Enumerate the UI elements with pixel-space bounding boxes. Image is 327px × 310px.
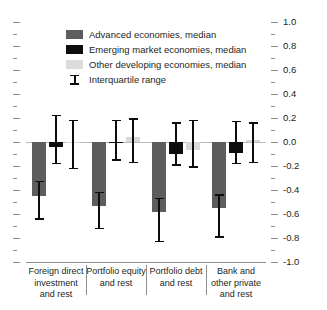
whisker-emerging-group-2 (115, 120, 117, 160)
whisker-cap-bottom-advanced-group-1 (35, 218, 44, 220)
y-tick-major-right (271, 166, 278, 167)
y-tick-minor-left (13, 106, 17, 107)
y-axis-label-0neg6: 0.6 (283, 64, 296, 75)
y-axis-label-neg1-0: -1.0 (283, 256, 299, 267)
category-label-4: Bank and other private and rest (206, 266, 266, 301)
y-tick-minor-left (13, 58, 17, 59)
y-tick-minor-right (271, 58, 275, 59)
whisker-cap-bottom-advanced-group-2 (95, 228, 104, 230)
y-tick-minor-right (271, 202, 275, 203)
y-tick-major-right (271, 142, 278, 143)
y-tick-major-right (271, 70, 278, 71)
plot-area (26, 22, 266, 262)
y-tick-minor-right (271, 82, 275, 83)
y-tick-minor-right (271, 106, 275, 107)
whisker-cap-top-emerging-group-3 (172, 122, 181, 124)
y-tick-minor-right (271, 130, 275, 131)
y-tick-major-left (13, 166, 20, 167)
whisker-advanced-group-1 (38, 182, 40, 219)
whisker-cap-top-other-developing-group-4 (249, 122, 258, 124)
whisker-other-developing-group-2 (132, 119, 134, 162)
y-tick-major-right (271, 238, 278, 239)
whisker-emerging-group-4 (235, 122, 237, 164)
whisker-advanced-group-2 (98, 192, 100, 228)
y-tick-major-left (13, 190, 20, 191)
y-tick-major-right (271, 46, 278, 47)
category-separator-3 (206, 265, 207, 295)
y-tick-major-right (271, 94, 278, 95)
whisker-cap-top-advanced-group-4 (215, 194, 224, 196)
whisker-other-developing-group-1 (72, 120, 74, 168)
whisker-cap-top-emerging-group-4 (232, 121, 241, 123)
category-label-2: Portfolio equity and rest (86, 266, 146, 289)
y-tick-major-left (13, 262, 20, 263)
whisker-cap-bottom-emerging-group-2 (112, 159, 121, 161)
y-tick-minor-left (13, 226, 17, 227)
whisker-cap-bottom-emerging-group-4 (232, 163, 241, 165)
y-tick-minor-left (13, 34, 17, 35)
whisker-cap-bottom-other-developing-group-3 (189, 166, 198, 168)
y-tick-minor-left (13, 154, 17, 155)
whisker-advanced-group-4 (218, 195, 220, 237)
y-tick-major-right (271, 22, 278, 23)
y-tick-minor-left (13, 178, 17, 179)
y-tick-major-left (13, 118, 20, 119)
whisker-cap-top-advanced-group-2 (95, 192, 104, 194)
y-axis-label-neg0-2: -0.2 (283, 160, 299, 171)
whisker-cap-bottom-emerging-group-1 (52, 163, 61, 165)
whisker-cap-bottom-advanced-group-4 (215, 236, 224, 238)
whisker-cap-bottom-other-developing-group-1 (69, 168, 78, 170)
y-tick-major-right (271, 262, 278, 263)
y-tick-major-left (13, 142, 20, 143)
y-axis-label-0neg2: 0.2 (283, 112, 296, 123)
y-tick-major-left (13, 70, 20, 71)
whisker-cap-top-other-developing-group-3 (189, 120, 198, 122)
category-separator-1 (86, 265, 87, 295)
y-tick-major-left (13, 214, 20, 215)
y-axis-label-0neg8: 0.8 (283, 40, 296, 51)
y-tick-minor-left (13, 202, 17, 203)
y-tick-minor-right (271, 250, 275, 251)
y-axis-label-1neg0: 1.0 (283, 16, 296, 27)
y-axis-label-neg0-4: -0.4 (283, 184, 299, 195)
y-tick-minor-right (271, 154, 275, 155)
y-tick-major-left (13, 238, 20, 239)
y-tick-minor-right (271, 178, 275, 179)
whisker-other-developing-group-3 (192, 120, 194, 167)
y-tick-major-left (13, 22, 20, 23)
y-tick-major-left (13, 94, 20, 95)
whisker-cap-bottom-emerging-group-3 (172, 164, 181, 166)
whisker-cap-top-emerging-group-2 (112, 120, 121, 122)
whisker-cap-bottom-other-developing-group-4 (249, 162, 258, 164)
y-axis-label-neg0-6: -0.6 (283, 208, 299, 219)
y-axis-label-neg0-8: -0.8 (283, 232, 299, 243)
whisker-cap-top-other-developing-group-2 (129, 118, 138, 120)
y-tick-major-right (271, 190, 278, 191)
whisker-cap-top-advanced-group-1 (35, 181, 44, 183)
chart-figure: Advanced economies, median Emerging mark… (0, 0, 327, 310)
y-tick-minor-left (13, 250, 17, 251)
y-tick-major-left (13, 46, 20, 47)
y-tick-minor-left (13, 82, 17, 83)
y-tick-major-right (271, 118, 278, 119)
category-axis-line (26, 262, 266, 263)
whisker-emerging-group-3 (175, 123, 177, 165)
whisker-cap-bottom-advanced-group-3 (155, 241, 164, 243)
category-label-1: Foreign direct investment and rest (26, 266, 86, 301)
whisker-emerging-group-1 (55, 116, 57, 164)
y-tick-minor-right (271, 34, 275, 35)
whisker-cap-top-other-developing-group-1 (69, 120, 78, 122)
y-tick-minor-left (13, 130, 17, 131)
whisker-cap-top-emerging-group-1 (52, 115, 61, 117)
whisker-cap-bottom-other-developing-group-2 (129, 162, 138, 164)
y-tick-major-right (271, 214, 278, 215)
y-axis-label-0neg0: 0.0 (283, 136, 296, 147)
category-label-3: Portfolio debt and rest (146, 266, 206, 289)
y-axis-label-0neg4: 0.4 (283, 88, 296, 99)
whisker-other-developing-group-4 (252, 123, 254, 163)
category-separator-2 (146, 265, 147, 295)
y-tick-minor-right (271, 226, 275, 227)
whisker-advanced-group-3 (158, 198, 160, 241)
whisker-cap-top-advanced-group-3 (155, 198, 164, 200)
